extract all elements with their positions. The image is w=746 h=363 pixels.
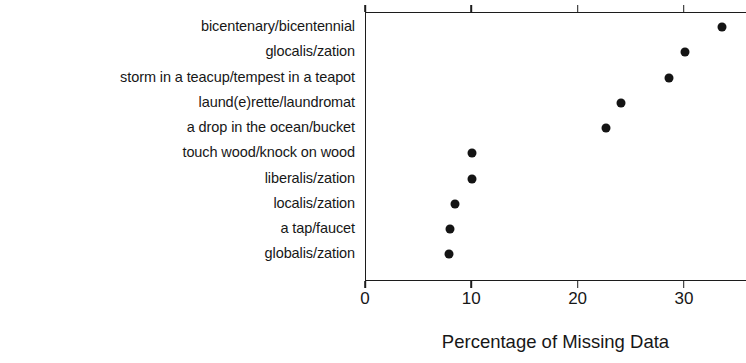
category-label: a drop in the ocean/bucket (0, 120, 355, 135)
plot-frame (365, 12, 746, 281)
data-point (445, 225, 454, 234)
category-label: touch wood/knock on wood (0, 145, 355, 160)
category-label-column: bicentenary/bicentennialglocalis/zations… (0, 12, 355, 281)
x-axis-tick (364, 281, 366, 288)
category-label: storm in a teacup/tempest in a teapot (0, 70, 355, 85)
category-label: laund(e)rette/laundromat (0, 95, 355, 110)
category-label: bicentenary/bicentennial (0, 19, 355, 34)
x-axis-tick-label: 30 (674, 289, 693, 308)
category-label: a tap/faucet (0, 221, 355, 236)
missing-data-dot-plot: bicentenary/bicentennialglocalis/zations… (0, 0, 746, 363)
data-point (468, 174, 477, 183)
x-axis-tick-top (471, 5, 473, 12)
x-axis-title: Percentage of Missing Data (365, 331, 746, 353)
x-axis-tick-label: 0 (360, 289, 369, 308)
x-axis-tick (471, 281, 473, 288)
data-point (664, 73, 673, 82)
category-label: localis/zation (0, 196, 355, 211)
data-point (444, 250, 453, 259)
data-point (617, 98, 626, 107)
category-label: globalis/zation (0, 246, 355, 261)
data-point (468, 149, 477, 158)
x-axis-tick-top (364, 5, 366, 12)
x-axis-tick (683, 281, 685, 288)
x-axis-tick-label: 20 (568, 289, 587, 308)
data-point (602, 124, 611, 133)
x-axis-tick-label: 10 (462, 289, 481, 308)
x-axis-tick-top (577, 5, 579, 12)
data-point (718, 23, 727, 32)
data-point (451, 199, 460, 208)
data-point (680, 48, 689, 57)
x-axis-tick-top (683, 5, 685, 12)
category-label: glocalis/zation (0, 44, 355, 59)
category-label: liberalis/zation (0, 171, 355, 186)
x-axis-tick (577, 281, 579, 288)
